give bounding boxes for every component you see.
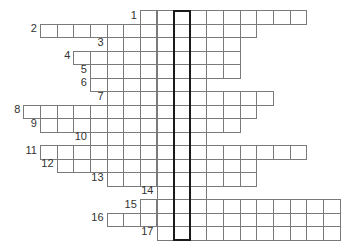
grid-cell[interactable] [223,199,241,214]
grid-cell[interactable] [107,24,125,39]
grid-cell[interactable] [290,199,308,214]
grid-cell[interactable] [190,172,208,187]
grid-cell[interactable] [123,145,141,160]
grid-cell[interactable] [157,51,175,66]
grid-cell[interactable] [157,91,175,106]
grid-cell[interactable] [190,132,208,147]
grid-cell[interactable] [240,159,258,174]
grid-cell[interactable] [157,145,175,160]
grid-cell[interactable] [206,226,224,241]
grid-cell[interactable] [173,226,191,241]
grid-cell[interactable] [157,105,175,120]
grid-cell[interactable] [173,199,191,214]
grid-cell[interactable] [140,199,158,214]
grid-cell[interactable] [157,213,175,228]
grid-cell[interactable] [190,186,208,201]
grid-cell[interactable] [123,159,141,174]
grid-cell[interactable] [173,186,191,201]
grid-cell[interactable] [140,118,158,133]
grid-cell[interactable] [123,24,141,39]
grid-cell[interactable] [223,51,241,66]
grid-cell[interactable] [206,172,224,187]
grid-cell[interactable] [190,24,208,39]
grid-cell[interactable] [40,118,58,133]
grid-cell[interactable] [273,10,291,25]
grid-cell[interactable] [173,78,191,93]
grid-cell[interactable] [57,24,75,39]
grid-cell[interactable] [140,132,158,147]
grid-cell[interactable] [140,78,158,93]
grid-cell[interactable] [240,105,258,120]
grid-cell[interactable] [107,132,125,147]
grid-cell[interactable] [273,145,291,160]
grid-cell[interactable] [40,24,58,39]
grid-cell[interactable] [206,37,224,52]
grid-cell[interactable] [107,118,125,133]
grid-cell[interactable] [157,186,175,201]
grid-cell[interactable] [173,64,191,79]
grid-cell[interactable] [206,159,224,174]
grid-cell[interactable] [290,213,308,228]
grid-cell[interactable] [256,10,274,25]
grid-cell[interactable] [140,105,158,120]
grid-cell[interactable] [223,105,241,120]
grid-cell[interactable] [107,51,125,66]
grid-cell[interactable] [123,37,141,52]
grid-cell[interactable] [123,132,141,147]
grid-cell[interactable] [223,118,241,133]
grid-cell[interactable] [73,145,91,160]
grid-cell[interactable] [206,199,224,214]
grid-cell[interactable] [240,91,258,106]
grid-cell[interactable] [256,226,274,241]
grid-cell[interactable] [206,145,224,160]
grid-cell[interactable] [206,91,224,106]
grid-cell[interactable] [123,118,141,133]
grid-cell[interactable] [223,91,241,106]
grid-cell[interactable] [157,78,175,93]
grid-cell[interactable] [256,199,274,214]
grid-cell[interactable] [190,226,208,241]
grid-cell[interactable] [223,213,241,228]
grid-cell[interactable] [123,91,141,106]
grid-cell[interactable] [290,145,308,160]
grid-cell[interactable] [273,199,291,214]
grid-cell[interactable] [140,159,158,174]
grid-cell[interactable] [173,145,191,160]
grid-cell[interactable] [157,37,175,52]
grid-cell[interactable] [240,213,258,228]
grid-cell[interactable] [140,91,158,106]
grid-cell[interactable] [206,118,224,133]
grid-cell[interactable] [107,64,125,79]
grid-cell[interactable] [107,91,125,106]
grid-cell[interactable] [157,118,175,133]
grid-cell[interactable] [123,64,141,79]
grid-cell[interactable] [107,172,125,187]
grid-cell[interactable] [173,105,191,120]
grid-cell[interactable] [190,105,208,120]
grid-cell[interactable] [240,199,258,214]
grid-cell[interactable] [240,145,258,160]
grid-cell[interactable] [223,172,241,187]
grid-cell[interactable] [173,172,191,187]
grid-cell[interactable] [173,91,191,106]
grid-cell[interactable] [190,51,208,66]
grid-cell[interactable] [157,199,175,214]
grid-cell[interactable] [290,226,308,241]
grid-cell[interactable] [273,213,291,228]
grid-cell[interactable] [140,145,158,160]
grid-cell[interactable] [173,159,191,174]
grid-cell[interactable] [157,159,175,174]
grid-cell[interactable] [157,64,175,79]
grid-cell[interactable] [157,24,175,39]
grid-cell[interactable] [306,226,324,241]
grid-cell[interactable] [157,10,175,25]
grid-cell[interactable] [107,78,125,93]
grid-cell[interactable] [223,145,241,160]
grid-cell[interactable] [73,105,91,120]
grid-cell[interactable] [90,64,108,79]
grid-cell[interactable] [190,10,208,25]
grid-cell[interactable] [190,37,208,52]
grid-cell[interactable] [140,37,158,52]
grid-cell[interactable] [240,226,258,241]
grid-cell[interactable] [90,118,108,133]
